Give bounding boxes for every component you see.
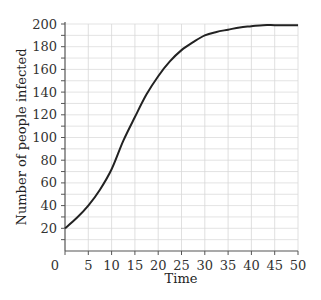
y-tick-label: 100 xyxy=(32,130,57,145)
y-tick-label: 60 xyxy=(40,175,57,190)
y-tick-label: 140 xyxy=(32,85,57,100)
y-tick-label: 180 xyxy=(32,39,57,54)
x-tick-label: 15 xyxy=(127,258,144,273)
y-axis-label: Number of people infected xyxy=(14,49,29,226)
y-tick-label: 160 xyxy=(32,62,57,77)
x-tick-label: 0 xyxy=(51,258,59,273)
x-axis-ticks: 05101520253035404550 xyxy=(51,251,306,273)
y-axis-ticks: 20406080100120140160180200 xyxy=(32,17,65,240)
x-tick-label: 5 xyxy=(84,258,92,273)
y-tick-label: 200 xyxy=(32,17,57,32)
x-tick-label: 30 xyxy=(197,258,214,273)
x-tick-label: 35 xyxy=(220,258,237,273)
x-tick-label: 50 xyxy=(290,258,307,273)
y-tick-label: 120 xyxy=(32,107,57,122)
x-tick-label: 10 xyxy=(103,258,120,273)
y-tick-label: 40 xyxy=(40,198,57,213)
y-tick-label: 80 xyxy=(40,153,57,168)
y-tick-label: 20 xyxy=(40,221,57,236)
x-tick-label: 40 xyxy=(243,258,260,273)
x-axis-label: Time xyxy=(165,271,198,286)
x-tick-label: 45 xyxy=(266,258,283,273)
infection-chart: 05101520253035404550 2040608010012014016… xyxy=(0,0,321,300)
